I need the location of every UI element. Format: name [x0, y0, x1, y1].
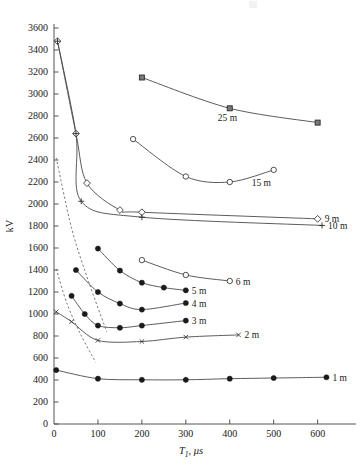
- x-tick-labels-group: 0100200300400500600: [52, 428, 326, 439]
- marker-circle-filled: [227, 376, 232, 381]
- x-tick-label: 0: [52, 428, 57, 439]
- y-tick-label: 3000: [28, 88, 48, 99]
- y-tick-labels-group: 0200400600800100012001400160018002000220…: [28, 22, 48, 429]
- marker-circle-filled: [117, 325, 122, 330]
- y-tick-label: 3600: [28, 22, 48, 33]
- marker-plus: [73, 131, 79, 137]
- y-tick-label: 0: [43, 418, 48, 429]
- marker-diamond-open: [314, 215, 321, 222]
- marker-circle-filled: [324, 375, 329, 380]
- marker-circle-filled: [183, 318, 188, 323]
- series-label-3m: 3 m: [192, 316, 207, 326]
- marker-circle-filled: [95, 246, 100, 251]
- x-axis-title: T1, μs: [179, 445, 203, 459]
- series-line-15-m: [133, 139, 274, 182]
- page-artifact: [249, 1, 257, 8]
- marker-circle-filled: [117, 268, 122, 273]
- y-tick-label: 2000: [28, 198, 48, 209]
- x-tick-label: 400: [222, 428, 237, 439]
- marker-circle-open: [183, 272, 188, 277]
- y-tick-label: 200: [33, 396, 48, 407]
- x-tick-label: 100: [90, 428, 105, 439]
- marker-circle-filled: [82, 311, 87, 316]
- y-tick-label: 800: [33, 330, 48, 341]
- marker-circle-filled: [117, 301, 122, 306]
- y-tick-label: 1200: [28, 286, 48, 297]
- y-tick-label: 400: [33, 374, 48, 385]
- svg-text:T1, μs: T1, μs: [179, 445, 203, 459]
- marker-circle-filled: [69, 293, 74, 298]
- marker-plus: [139, 214, 145, 220]
- series-line-3-m: [72, 296, 186, 328]
- data-series-group: [56, 41, 326, 380]
- marker-plus: [55, 38, 61, 44]
- y-tick-label: 2800: [28, 110, 48, 121]
- series-line-10-m: [58, 41, 323, 225]
- series-label-4m: 4 m: [192, 299, 207, 309]
- y-tick-label: 600: [33, 352, 48, 363]
- marker-circle-open: [227, 179, 232, 184]
- series-labels-group: 25 m15 m9 m10 m6 m5 m4 m3 m2 m1 m: [192, 113, 348, 382]
- marker-square: [315, 120, 320, 125]
- marker-circle-filled: [95, 323, 100, 328]
- marker-circle-filled: [183, 300, 188, 305]
- series-label-2m: 2 m: [245, 330, 260, 340]
- series-label-10m: 10 m: [328, 221, 348, 231]
- marker-circle-open: [139, 257, 144, 262]
- marker-circle-filled: [161, 285, 166, 290]
- marker-circle-open: [271, 167, 276, 172]
- series-line-9-m: [58, 41, 318, 219]
- y-tick-label: 2600: [28, 132, 48, 143]
- y-tick-label: 2400: [28, 154, 48, 165]
- axes-group: [54, 24, 356, 424]
- marker-circle-filled: [95, 289, 100, 294]
- data-markers-group: [54, 38, 329, 383]
- axis-ticks-group: [54, 28, 318, 424]
- series-label-5m: 5 m: [192, 286, 207, 296]
- y-tick-label: 3200: [28, 66, 48, 77]
- marker-circle-filled: [139, 307, 144, 312]
- marker-circle-filled: [183, 288, 188, 293]
- marker-x: [54, 310, 58, 314]
- marker-circle-filled: [139, 377, 144, 382]
- marker-circle-filled: [73, 267, 78, 272]
- marker-circle-filled: [54, 368, 59, 373]
- marker-circle-open: [227, 278, 232, 283]
- marker-square: [227, 106, 232, 111]
- y-tick-label: 1400: [28, 264, 48, 275]
- series-line-dashed-upper: [56, 158, 107, 332]
- series-label-25m: 25 m: [218, 113, 238, 123]
- y-tick-label: 2200: [28, 176, 48, 187]
- marker-circle-filled: [183, 377, 188, 382]
- marker-circle-open: [183, 174, 188, 179]
- x-tick-label: 600: [310, 428, 325, 439]
- series-label-15m: 15 m: [252, 178, 272, 188]
- x-tick-label: 500: [266, 428, 281, 439]
- series-line-4-m: [76, 270, 186, 310]
- y-tick-label: 1000: [28, 308, 48, 319]
- chart-container: 0200400600800100012001400160018002000220…: [0, 0, 363, 471]
- x-tick-label: 300: [178, 428, 193, 439]
- marker-circle-open: [130, 136, 135, 141]
- y-tick-label: 1800: [28, 220, 48, 231]
- y-tick-label: 3400: [28, 44, 48, 55]
- marker-circle-filled: [139, 323, 144, 328]
- marker-square: [139, 75, 144, 80]
- marker-circle-filled: [139, 280, 144, 285]
- line-chart-svg: 0200400600800100012001400160018002000220…: [0, 0, 363, 471]
- marker-circle-filled: [271, 375, 276, 380]
- series-label-1m: 1 m: [332, 373, 347, 383]
- y-axis-title: kV: [4, 219, 15, 232]
- x-tick-label: 200: [134, 428, 149, 439]
- marker-circle-filled: [95, 376, 100, 381]
- marker-x: [69, 320, 73, 324]
- series-label-6m: 6 m: [236, 277, 251, 287]
- marker-diamond-open: [84, 180, 91, 187]
- y-tick-label: 1600: [28, 242, 48, 253]
